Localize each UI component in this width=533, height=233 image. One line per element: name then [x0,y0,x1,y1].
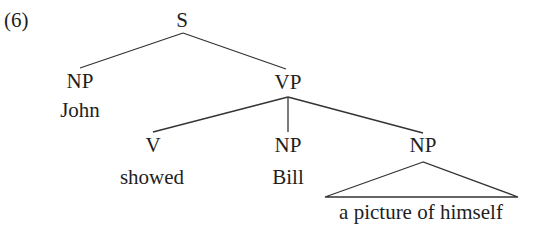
leaf-john: John [60,99,100,121]
node-s: S [176,9,188,31]
edge-vp-np-picture [288,97,423,133]
node-v: V [145,134,160,156]
leaf-a-picture-of-himself: a picture of himself [339,201,503,223]
leaf-bill: Bill [272,166,304,188]
example-number: (6) [4,9,29,31]
edge-s-vp [183,33,286,69]
node-vp: VP [275,71,302,93]
edge-s-np [80,33,183,68]
node-np-object2: NP [410,134,437,156]
node-np-object1: NP [275,134,302,156]
node-np-subject: NP [67,70,94,92]
syntax-tree-diagram: (6) S NP John VP V showed NP Bill NP a p… [0,0,533,233]
leaf-showed: showed [120,166,184,188]
triangle-np-collapsed [325,162,518,197]
edge-vp-v [153,97,288,132]
